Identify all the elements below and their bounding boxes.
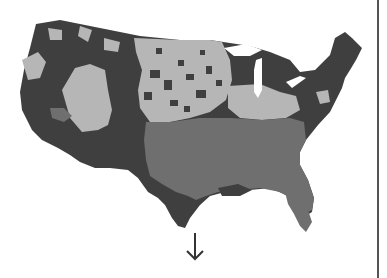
vertical-divider: [377, 0, 379, 278]
down-arrow-icon: [184, 232, 206, 262]
